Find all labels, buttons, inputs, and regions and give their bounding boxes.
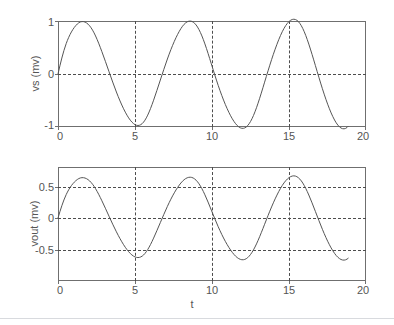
- ytick-label-0-vs: 0: [48, 69, 54, 80]
- ytick-mark-0p5-vout: [55, 187, 58, 188]
- figure-canvas: 1 0 -1 0 5 10 15 20 vs (mv): [0, 0, 394, 325]
- plot-vout: 0.5 0 -0.5 0 5 10 15 20: [58, 167, 366, 281]
- xtick-label-10-vs: 10: [206, 131, 218, 142]
- xtick-label-20-vout: 20: [357, 285, 369, 296]
- xtick-label-0-vout: 0: [57, 285, 63, 296]
- plot-vs: 1 0 -1 0 5 10 15 20: [58, 21, 366, 127]
- ytick-mark-0-vout: [55, 218, 58, 219]
- xtick-label-5-vs: 5: [132, 131, 138, 142]
- xlabel-t: t: [182, 299, 202, 310]
- ytick-mark-0-vs: [55, 74, 58, 75]
- xtick-label-20-vs: 20: [357, 131, 369, 142]
- ytick-mark-1-vs: [55, 21, 58, 22]
- ylabel-vout: vout (mv): [29, 176, 40, 272]
- curve-path-vout: [58, 176, 349, 260]
- ytick-mark-neg0p5-vout: [55, 250, 58, 251]
- ytick-label-0p5-vout: 0.5: [39, 182, 54, 193]
- xtick-label-5-vout: 5: [132, 285, 138, 296]
- xtick-label-10-vout: 10: [206, 285, 218, 296]
- xtick-label-15-vout: 15: [283, 285, 295, 296]
- ytick-label-neg1-vs: -1: [44, 120, 54, 131]
- ytick-label-1-vs: 1: [48, 17, 54, 28]
- curve-path-vs: [58, 19, 349, 129]
- page-bottom-rule: [0, 318, 394, 319]
- curve-vs: [58, 21, 366, 127]
- xtick-label-0-vs: 0: [57, 131, 63, 142]
- ytick-label-0-vout: 0: [48, 213, 54, 224]
- xtick-label-15-vs: 15: [283, 131, 295, 142]
- ylabel-vs: vs (mv): [30, 34, 41, 114]
- curve-vout: [58, 167, 366, 281]
